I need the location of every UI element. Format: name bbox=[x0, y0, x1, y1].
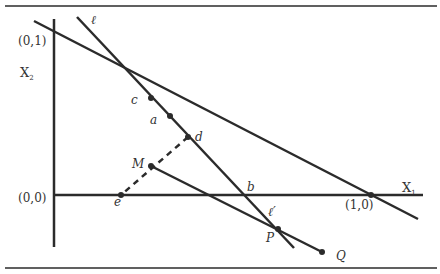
label-P: P bbox=[265, 231, 275, 245]
point-a bbox=[167, 113, 173, 119]
point-P bbox=[275, 226, 281, 232]
label-0-0: (0,0) bbox=[18, 191, 46, 205]
label-1-0: (1,0) bbox=[345, 198, 373, 212]
label-ell-prime: ℓ′ bbox=[268, 205, 276, 219]
label-c: c bbox=[131, 93, 138, 107]
point-c bbox=[148, 95, 154, 101]
label-d: d bbox=[195, 130, 203, 144]
point-Q bbox=[319, 249, 325, 255]
constraint-line bbox=[34, 21, 418, 219]
label-a: a bbox=[150, 113, 157, 127]
line-ell bbox=[77, 17, 294, 248]
label-ell: ℓ bbox=[91, 13, 96, 27]
point-M bbox=[148, 163, 154, 169]
label-Q: Q bbox=[336, 249, 346, 263]
label-x1: X1 bbox=[402, 180, 416, 197]
label-M: M bbox=[131, 157, 145, 171]
point-d bbox=[185, 134, 191, 140]
geometry-diagram: (0,1) (0,0) (1,0) X2 X1 ℓ ℓ′ c a d M e b… bbox=[0, 0, 440, 274]
line-ell-prime bbox=[151, 166, 322, 252]
label-x2: X2 bbox=[20, 65, 34, 82]
label-e: e bbox=[114, 195, 121, 209]
label-b: b bbox=[247, 180, 255, 194]
label-0-1: (0,1) bbox=[18, 34, 46, 48]
